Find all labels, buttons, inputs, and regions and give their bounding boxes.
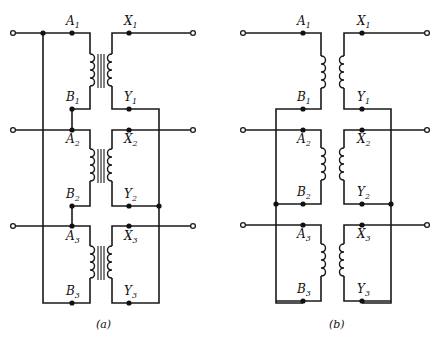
transformer-connection-diagrams: A1 X1 B1 Y1 A2 X2 B2 Y2 A3 X3 B3 Y3 (a) [0, 0, 442, 341]
label-B2: B2 [65, 187, 80, 203]
label-B3: B3 [65, 284, 80, 300]
label-Y3: Y3 [124, 284, 137, 300]
transformer-a2 [13, 130, 193, 226]
label-X1: X1 [356, 14, 371, 30]
terminals-b [241, 31, 430, 228]
panel-a: A1 X1 B1 Y1 A2 X2 B2 Y2 A3 X3 B3 Y3 (a) [11, 14, 196, 331]
label-A1: A1 [296, 14, 311, 30]
label-A2: A2 [65, 132, 80, 148]
label-B1: B1 [65, 90, 80, 106]
label-X3: X3 [356, 227, 371, 243]
transformer-a1 [13, 33, 193, 130]
labels-b: A1 X1 B1 Y1 A2 X2 B2 Y2 A3 X3 B3 Y3 (b) [296, 14, 371, 331]
label-A3: A3 [296, 227, 311, 243]
caption-a: (a) [96, 318, 111, 331]
label-X2: X2 [356, 132, 371, 148]
panel-b: A1 X1 B1 Y1 A2 X2 B2 Y2 A3 X3 B3 Y3 (b) [241, 14, 430, 331]
label-Y2: Y2 [124, 187, 137, 203]
label-A3: A3 [65, 229, 80, 245]
label-B3: B3 [296, 282, 311, 298]
label-X2: X2 [123, 132, 138, 148]
transformer-a3 [13, 226, 193, 303]
output-terminal [191, 31, 196, 36]
transformer-b2 [243, 130, 427, 204]
transformer-b1 [243, 33, 427, 109]
label-Y2: Y2 [357, 185, 370, 201]
label-B1: B1 [296, 90, 311, 106]
label-A2: A2 [296, 132, 311, 148]
input-terminal [11, 31, 16, 36]
left-bus-a [43, 33, 72, 303]
label-Y3: Y3 [357, 282, 370, 298]
junction-dots-b [273, 30, 393, 303]
label-Y1: Y1 [124, 90, 137, 106]
label-A1: A1 [65, 14, 80, 30]
caption-b: (b) [329, 318, 345, 331]
label-Y1: Y1 [357, 90, 370, 106]
label-X1: X1 [123, 14, 138, 30]
transformer-b3 [243, 225, 427, 301]
label-X3: X3 [123, 229, 138, 245]
label-B2: B2 [296, 185, 311, 201]
